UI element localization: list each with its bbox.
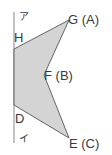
label-e: E (C) (69, 136, 99, 151)
label-i: イ (19, 133, 29, 144)
label-d: D (15, 111, 24, 126)
label-f: F (B) (44, 68, 73, 83)
label-h: H (14, 30, 23, 45)
label-a: ア (19, 11, 29, 22)
diagram: ア H G (A) F (B) D イ E (C) (0, 0, 112, 155)
label-g: G (A) (68, 12, 99, 27)
